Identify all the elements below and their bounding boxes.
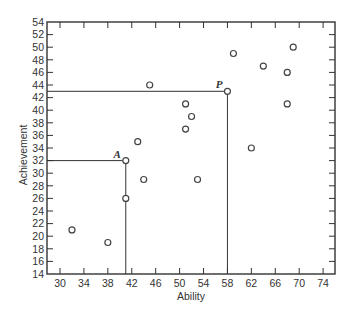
axis-ticks: 3034384246505458626670741416182022242628…: [32, 16, 335, 289]
y-tick-label: 20: [32, 230, 44, 242]
plot-border: [47, 22, 335, 274]
y-tick-label: 24: [32, 205, 44, 217]
point-label: A: [112, 148, 120, 160]
y-tick-label: 28: [32, 180, 44, 192]
y-tick-label: 54: [32, 16, 44, 28]
x-tick-label: 30: [54, 277, 66, 289]
y-tick-label: 50: [32, 41, 44, 53]
data-point: [195, 177, 201, 183]
data-point: [290, 44, 296, 50]
y-tick-label: 40: [32, 104, 44, 116]
data-point: [284, 101, 290, 107]
data-point: [141, 177, 147, 183]
x-axis-title: Ability: [177, 290, 206, 302]
data-point: [284, 69, 290, 75]
y-tick-label: 36: [32, 129, 44, 141]
x-tick-label: 74: [317, 277, 329, 289]
data-point: [69, 227, 75, 233]
y-tick-label: 48: [32, 54, 44, 66]
x-tick-label: 54: [198, 277, 210, 289]
data-point: [183, 101, 189, 107]
data-points: AP: [69, 44, 296, 245]
y-tick-label: 32: [32, 154, 44, 166]
x-tick-label: 70: [293, 277, 305, 289]
data-point: [183, 126, 189, 132]
y-tick-label: 22: [32, 217, 44, 229]
y-tick-label: 30: [32, 167, 44, 179]
y-tick-label: 14: [32, 268, 44, 280]
plot-frame: [47, 22, 335, 274]
x-tick-label: 58: [222, 277, 234, 289]
data-point: [248, 145, 254, 151]
y-tick-label: 46: [32, 66, 44, 78]
x-tick-label: 34: [78, 277, 90, 289]
y-tick-label: 34: [32, 142, 44, 154]
x-tick-label: 46: [150, 277, 162, 289]
y-axis-title: Achievement: [17, 125, 29, 186]
y-tick-label: 42: [32, 91, 44, 103]
x-tick-label: 62: [246, 277, 258, 289]
y-tick-label: 38: [32, 117, 44, 129]
x-tick-label: 42: [126, 277, 138, 289]
x-tick-label: 38: [102, 277, 114, 289]
data-point: [123, 195, 129, 201]
x-tick-label: 50: [174, 277, 186, 289]
data-point: [224, 88, 230, 94]
data-point: [189, 114, 195, 120]
x-tick-label: 66: [269, 277, 281, 289]
data-point: [260, 63, 266, 69]
data-point: [135, 139, 141, 145]
y-tick-label: 18: [32, 243, 44, 255]
data-point: [105, 240, 111, 246]
y-tick-label: 44: [32, 79, 44, 91]
y-tick-label: 26: [32, 192, 44, 204]
data-point: [123, 158, 129, 164]
data-point: [147, 82, 153, 88]
y-tick-label: 52: [32, 28, 44, 40]
data-point: [230, 51, 236, 57]
y-tick-label: 16: [32, 255, 44, 267]
scatter-chart: 3034384246505458626670741416182022242628…: [0, 0, 353, 315]
reference-lines: [47, 91, 227, 274]
point-label: P: [216, 78, 223, 90]
